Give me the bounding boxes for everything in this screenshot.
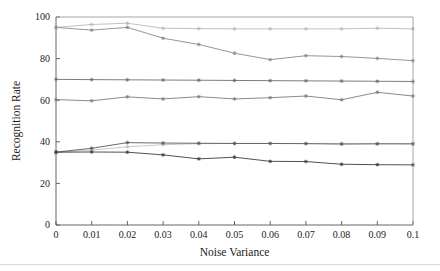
data-point-marker bbox=[126, 141, 130, 145]
x-axis-title: Noise Variance bbox=[200, 246, 270, 258]
data-point-marker bbox=[197, 27, 201, 31]
chart-figure: 02040608010000.010.020.030.040.050.060.0… bbox=[0, 0, 440, 271]
data-point-marker bbox=[54, 78, 58, 82]
data-point-marker bbox=[90, 150, 94, 154]
data-point-marker bbox=[90, 146, 94, 150]
x-axis-tick-label: 0 bbox=[54, 229, 59, 240]
plot-box-closure bbox=[56, 17, 413, 225]
y-axis-tick-label: 0 bbox=[45, 219, 50, 230]
data-point-marker bbox=[126, 26, 130, 30]
x-axis-tick-label: 0.07 bbox=[297, 229, 315, 240]
x-axis-tick-label: 0.04 bbox=[190, 229, 208, 240]
data-point-marker bbox=[268, 96, 272, 100]
data-point-marker bbox=[304, 94, 308, 98]
x-axis-tick-label: 0.02 bbox=[119, 229, 137, 240]
data-point-marker bbox=[268, 27, 272, 31]
data-point-marker bbox=[375, 79, 379, 83]
data-point-marker bbox=[268, 142, 272, 146]
data-point-marker bbox=[233, 142, 237, 146]
x-axis-tick-label: 0.1 bbox=[407, 229, 420, 240]
data-point-marker bbox=[197, 78, 201, 82]
data-point-marker bbox=[161, 78, 165, 82]
data-point-marker bbox=[161, 26, 165, 30]
figure-bottom-rule bbox=[0, 264, 440, 271]
data-point-marker bbox=[340, 162, 344, 166]
data-point-marker bbox=[233, 27, 237, 31]
data-point-marker bbox=[375, 142, 379, 146]
data-point-marker bbox=[126, 145, 130, 149]
x-axis-tick-label: 0.06 bbox=[261, 229, 279, 240]
x-axis-tick-label: 0.01 bbox=[83, 229, 101, 240]
data-point-marker bbox=[126, 78, 130, 82]
data-point-marker bbox=[197, 43, 201, 47]
data-point-marker bbox=[233, 51, 237, 55]
data-point-marker bbox=[304, 79, 308, 83]
data-point-marker bbox=[375, 90, 379, 94]
data-point-marker bbox=[197, 95, 201, 99]
data-point-marker bbox=[90, 28, 94, 32]
x-axis-tick-label: 0.08 bbox=[333, 229, 351, 240]
data-point-marker bbox=[268, 159, 272, 163]
data-point-marker bbox=[340, 98, 344, 102]
data-point-marker bbox=[161, 97, 165, 101]
y-axis-tick-label: 80 bbox=[40, 53, 50, 64]
x-axis-tick-label: 0.09 bbox=[369, 229, 387, 240]
y-axis-tick-label: 40 bbox=[40, 136, 50, 147]
data-point-marker bbox=[340, 55, 344, 59]
data-point-marker bbox=[304, 27, 308, 31]
x-axis-tick-label: 0.03 bbox=[154, 229, 172, 240]
data-point-marker bbox=[304, 160, 308, 164]
data-point-marker bbox=[340, 79, 344, 83]
data-point-marker bbox=[197, 157, 201, 161]
data-point-marker bbox=[90, 78, 94, 82]
data-point-marker bbox=[161, 36, 165, 40]
data-point-marker bbox=[268, 58, 272, 62]
y-axis-tick-label: 100 bbox=[35, 11, 50, 22]
data-point-marker bbox=[233, 155, 237, 159]
data-point-marker bbox=[375, 163, 379, 167]
data-point-marker bbox=[90, 99, 94, 103]
data-point-marker bbox=[340, 142, 344, 146]
data-point-marker bbox=[340, 27, 344, 31]
y-axis-tick-label: 60 bbox=[40, 95, 50, 106]
data-point-marker bbox=[161, 141, 165, 145]
y-axis-title: Recognition Rate bbox=[10, 81, 23, 161]
data-point-marker bbox=[54, 150, 58, 154]
data-point-marker bbox=[233, 79, 237, 83]
data-point-marker bbox=[375, 26, 379, 30]
data-point-marker bbox=[54, 26, 58, 30]
y-axis-title-group: Recognition Rate bbox=[10, 81, 23, 161]
line-chart: 02040608010000.010.020.030.040.050.060.0… bbox=[0, 0, 440, 271]
data-point-marker bbox=[90, 23, 94, 27]
data-point-marker bbox=[233, 97, 237, 101]
axis-spines bbox=[56, 17, 413, 225]
series-line-series-top-declining bbox=[56, 27, 413, 60]
data-point-marker bbox=[375, 56, 379, 60]
data-point-marker bbox=[197, 141, 201, 145]
data-point-marker bbox=[268, 79, 272, 83]
x-axis-tick-label: 0.05 bbox=[226, 229, 244, 240]
data-point-marker bbox=[304, 142, 308, 146]
data-point-marker bbox=[126, 150, 130, 154]
data-point-marker bbox=[54, 98, 58, 102]
y-axis-tick-label: 20 bbox=[40, 178, 50, 189]
data-point-marker bbox=[126, 95, 130, 99]
data-point-marker bbox=[304, 54, 308, 58]
data-point-marker bbox=[161, 153, 165, 157]
data-point-marker bbox=[126, 21, 130, 25]
